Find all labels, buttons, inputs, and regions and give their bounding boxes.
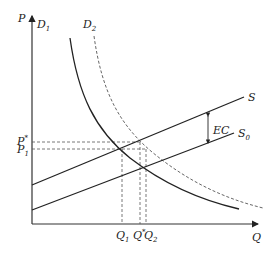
q2-label: Q2 (144, 229, 158, 244)
q1-label: Q1 (116, 229, 130, 244)
s0-label: S0 (238, 127, 251, 142)
d1-label: D1 (36, 18, 50, 33)
s-label: S (248, 91, 256, 104)
x-axis-label: Q (252, 231, 261, 244)
supply-demand-diagram: P Q D1 D2 S S0 EC P* P1 Q1 Q* Q2 (0, 0, 280, 253)
y-axis-label: P (17, 12, 26, 25)
ec-label: EC (212, 124, 230, 137)
demand-curve-d2 (94, 36, 263, 208)
d2-label: D2 (82, 18, 97, 33)
p1-label: P1 (16, 143, 29, 158)
guide-lines (32, 142, 146, 224)
